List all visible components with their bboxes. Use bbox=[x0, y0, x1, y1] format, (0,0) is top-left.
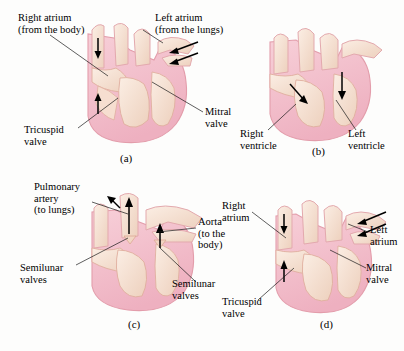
label-mitral-valve-d: Mitral valve bbox=[366, 262, 392, 285]
leader-right-atrium-d bbox=[252, 212, 286, 238]
label-left-atrium-d: Left atrium bbox=[370, 224, 397, 247]
leader-mitral-valve-d bbox=[330, 250, 366, 268]
panel-d-leader-lines bbox=[0, 0, 404, 351]
label-right-atrium-d: Right atrium bbox=[222, 200, 249, 223]
label-tricuspid-valve-d: Tricuspid valve bbox=[222, 296, 262, 319]
leader-left-atrium-d bbox=[348, 224, 368, 232]
leader-tricuspid-valve-d bbox=[258, 268, 294, 300]
caption-panel-d: (d) bbox=[320, 318, 333, 330]
heart-cycle-figure: Right atrium (from the body) Left atrium… bbox=[0, 0, 404, 351]
